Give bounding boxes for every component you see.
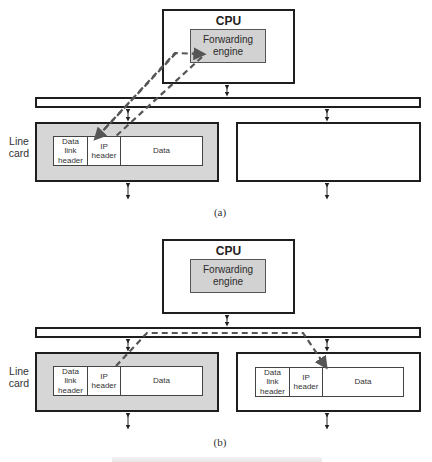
panel-a-label: (a) [205, 206, 235, 218]
figure-caption-cropped [112, 457, 322, 462]
panel-a: CPU Forwarding engine Line card Data lin… [0, 0, 432, 230]
line-card-right [236, 122, 421, 182]
packet-field-data: Data [120, 137, 202, 165]
panel-b-label: (b) [205, 436, 235, 448]
cpu-title: CPU [164, 14, 293, 28]
panel-b: CPU Forwarding engine Line card Data lin… [0, 230, 432, 460]
packet-field-ip-header: IP header [289, 368, 322, 396]
packet-field-data: Data [322, 368, 403, 396]
system-bus [35, 327, 421, 338]
packet-field-data-link-header: Data link header [256, 368, 289, 396]
packet-field-data-link-header: Data link header [54, 137, 87, 165]
system-bus [35, 97, 421, 108]
packet: Data link header IP header Data [255, 367, 404, 397]
cpu-title: CPU [164, 244, 293, 258]
line-card-label: Line card [6, 135, 32, 159]
packet: Data link header IP header Data [53, 136, 203, 166]
packet-field-data-link-header: Data link header [54, 367, 87, 395]
line-card-label: Line card [6, 365, 32, 389]
packet-field-ip-header: IP header [87, 137, 120, 165]
forwarding-engine: Forwarding engine [190, 29, 266, 63]
forwarding-engine: Forwarding engine [190, 259, 266, 293]
packet-field-data: Data [120, 367, 202, 395]
packet: Data link header IP header Data [53, 366, 203, 396]
packet-field-ip-header: IP header [87, 367, 120, 395]
